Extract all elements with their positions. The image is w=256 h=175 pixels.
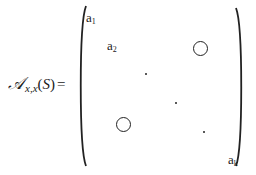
- left-paren-icon: [76, 4, 88, 168]
- matrix-entry-a1: a1: [86, 10, 96, 26]
- entry-index: k: [234, 159, 238, 168]
- lhs-close-paren: ): [50, 76, 55, 92]
- lhs-argument: S: [43, 76, 51, 92]
- matrix-entry-ak: ak: [228, 152, 238, 168]
- equals-sign: =: [57, 76, 65, 92]
- equation-lhs: 𝒜x,x(S)=: [8, 74, 65, 94]
- lhs-subscript: x,x: [25, 82, 38, 94]
- entry-index: 1: [92, 17, 96, 26]
- diagonal-dot-3: [203, 131, 205, 133]
- right-paren-icon: [234, 6, 246, 168]
- diagonal-dot-1: [145, 73, 147, 75]
- matrix-entry-a2: a2: [107, 38, 117, 54]
- entry-index: 2: [113, 45, 117, 54]
- diagonal-dot-2: [175, 102, 177, 104]
- zero-block-upper-right-icon: [193, 41, 208, 56]
- zero-block-lower-left-icon: [116, 117, 131, 132]
- script-a-symbol: 𝒜: [8, 74, 24, 93]
